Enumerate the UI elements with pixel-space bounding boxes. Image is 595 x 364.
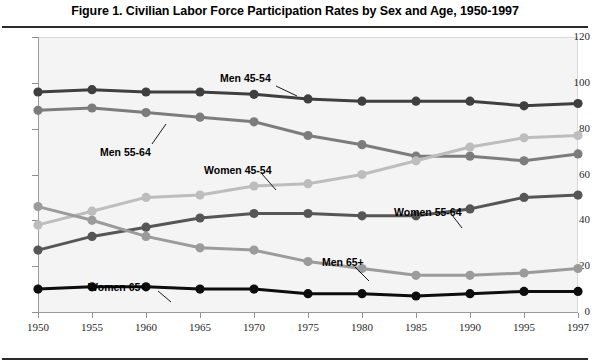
data-point [33, 285, 42, 294]
annotation-leader-line [158, 291, 171, 302]
bottom-divider [2, 358, 588, 360]
data-point [465, 204, 474, 213]
data-point [357, 140, 366, 149]
data-point [87, 103, 96, 112]
series-label-women-55-64: Women 55-64 [394, 206, 462, 218]
data-point [87, 85, 96, 94]
data-point [249, 117, 258, 126]
data-point [519, 156, 528, 165]
data-point [573, 191, 582, 200]
data-point [33, 87, 42, 96]
annotation-leader-line [276, 86, 297, 96]
data-point [141, 193, 150, 202]
data-point [141, 232, 150, 241]
data-point [573, 287, 582, 296]
data-point [249, 285, 258, 294]
data-point [33, 106, 42, 115]
data-point [519, 133, 528, 142]
data-point [573, 99, 582, 108]
data-point [519, 101, 528, 110]
data-point [411, 97, 420, 106]
data-point [195, 243, 204, 252]
data-point [33, 220, 42, 229]
series-label-men-55-64: Men 55-64 [100, 146, 151, 158]
data-point [465, 271, 474, 280]
data-point [87, 207, 96, 216]
data-point [465, 142, 474, 151]
annotation-leader-line [152, 124, 166, 144]
data-point [87, 216, 96, 225]
data-point [573, 131, 582, 140]
series-women-55-64 [33, 191, 582, 255]
annotation-leader-line [262, 174, 276, 190]
data-point [411, 156, 420, 165]
data-point [519, 287, 528, 296]
data-point [249, 246, 258, 255]
data-point [357, 97, 366, 106]
data-point [249, 90, 258, 99]
data-point [303, 179, 312, 188]
data-point [465, 289, 474, 298]
data-point [249, 181, 258, 190]
data-point [141, 87, 150, 96]
data-point [195, 191, 204, 200]
data-point [195, 285, 204, 294]
data-point [357, 170, 366, 179]
data-point [357, 289, 366, 298]
data-point [573, 149, 582, 158]
data-point [411, 291, 420, 300]
series-label-men-65: Men 65+ [322, 256, 364, 268]
data-point [33, 246, 42, 255]
data-point [519, 268, 528, 277]
data-point [195, 113, 204, 122]
data-point [411, 271, 420, 280]
data-point [303, 131, 312, 140]
series-label-men-45-54: Men 45-54 [220, 72, 271, 84]
series-label-women-65: Women 65+ [88, 281, 146, 293]
data-point [249, 209, 258, 218]
series-men-45-54 [33, 85, 582, 110]
data-point [303, 289, 312, 298]
data-point [303, 94, 312, 103]
data-point [573, 264, 582, 273]
data-point [141, 223, 150, 232]
data-point [195, 213, 204, 222]
data-point [141, 108, 150, 117]
data-point [465, 152, 474, 161]
series-group [33, 85, 582, 301]
data-point [519, 193, 528, 202]
data-point [195, 87, 204, 96]
data-point [33, 202, 42, 211]
series-label-women-45-54: Women 45-54 [204, 164, 272, 176]
data-point [87, 232, 96, 241]
data-point [357, 211, 366, 220]
data-point [465, 97, 474, 106]
data-point [303, 257, 312, 266]
data-point [303, 209, 312, 218]
